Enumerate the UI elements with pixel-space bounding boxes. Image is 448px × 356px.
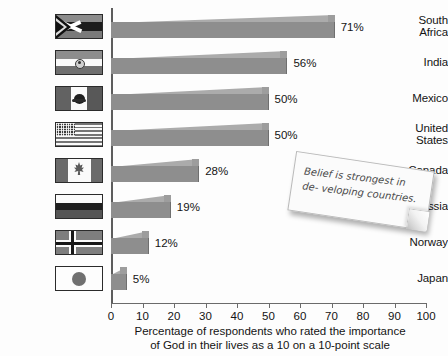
flag-norway — [55, 230, 103, 255]
category-label-line: India — [398, 57, 448, 69]
bar — [111, 15, 335, 38]
category-label-line: United — [398, 123, 448, 135]
x-axis-tick-label: 100 — [411, 310, 441, 323]
x-axis-caption-line-1: Percentage of respondents who rated the … — [111, 325, 429, 339]
flag-russia — [55, 194, 103, 219]
x-axis-tick-label: 30 — [191, 310, 221, 323]
bar-value-label: 56% — [293, 57, 316, 70]
flag-japan — [55, 266, 103, 291]
category-label: Mexico — [398, 93, 448, 105]
bar-front-face — [111, 130, 269, 146]
x-axis-caption-line-2: of God in their lives as a 10 on a 10-po… — [111, 339, 429, 353]
bar-value-label: 50% — [275, 129, 298, 142]
x-axis-tick-mark — [363, 303, 364, 308]
bar-value-label: 19% — [177, 201, 200, 214]
bar-value-label: 28% — [205, 165, 228, 178]
x-axis-tick-label: 70 — [317, 310, 347, 323]
x-axis-tick-label: 10 — [128, 310, 158, 323]
bar — [111, 123, 269, 146]
flag-south-africa — [55, 14, 103, 39]
bar-front-face — [111, 94, 269, 110]
x-axis-tick-mark — [426, 303, 427, 308]
x-axis-tick-mark — [300, 303, 301, 308]
x-axis-tick-label: 90 — [380, 310, 410, 323]
bar-value-label: 50% — [275, 93, 298, 106]
bar — [111, 87, 269, 110]
bar-front-face — [111, 202, 171, 218]
x-axis-tick-mark — [206, 303, 207, 308]
bar-value-label: 5% — [133, 273, 150, 286]
bar — [111, 51, 287, 74]
sticky-note-annotation: Belief is strongest in de- veloping coun… — [287, 151, 434, 231]
category-label: India — [398, 57, 448, 69]
x-axis-caption: Percentage of respondents who rated the … — [111, 325, 429, 352]
x-axis-tick-mark — [332, 303, 333, 308]
flag-mexico — [55, 86, 103, 111]
x-axis-tick-label: 40 — [222, 310, 252, 323]
category-label: UnitedStates — [398, 123, 448, 146]
bar-front-face — [111, 58, 287, 74]
x-axis-tick-mark — [174, 303, 175, 308]
x-axis-tick-mark — [237, 303, 238, 308]
x-axis-tick-mark — [395, 303, 396, 308]
category-label-line: Africa — [398, 27, 448, 39]
x-axis-tick-label: 0 — [96, 310, 126, 323]
x-axis-tick-label: 50 — [254, 310, 284, 323]
x-axis-tick-label: 20 — [159, 310, 189, 323]
category-label: Japan — [398, 273, 448, 285]
flag-canada — [55, 158, 103, 183]
bar-front-face — [111, 238, 149, 254]
flag-india — [55, 50, 103, 75]
x-axis-tick-mark — [269, 303, 270, 308]
sticky-note-curled-corner — [406, 208, 430, 232]
bar — [111, 159, 199, 182]
category-label-line: States — [398, 135, 448, 147]
category-label-line: South — [398, 15, 448, 27]
category-label-line: Mexico — [398, 93, 448, 105]
x-axis-tick-mark — [143, 303, 144, 308]
x-axis-tick-label: 80 — [348, 310, 378, 323]
x-axis-tick-mark — [111, 303, 112, 308]
flag-united-states — [55, 122, 103, 147]
category-label: SouthAfrica — [398, 15, 448, 38]
bar — [111, 267, 127, 290]
bar-value-label: 12% — [155, 237, 178, 250]
bar-front-face — [111, 166, 199, 182]
x-axis-tick-label: 60 — [285, 310, 315, 323]
category-label-line: Norway — [398, 237, 448, 249]
bar — [111, 195, 171, 218]
category-label-line: Japan — [398, 273, 448, 285]
bar-front-face — [111, 274, 127, 290]
chart-container: SouthAfricaIndiaMexicoUnitedStatesCanada… — [0, 0, 448, 356]
bar-front-face — [111, 22, 335, 38]
bar — [111, 231, 149, 254]
category-label: Norway — [398, 237, 448, 249]
bar-value-label: 71% — [341, 21, 364, 34]
